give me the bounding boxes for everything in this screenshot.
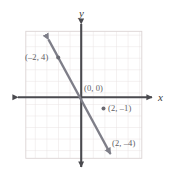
- coordinate-plane-figure: y x (–2, 4) (0, 0) (2, –1) (2, –4): [0, 0, 174, 182]
- y-axis-label: y: [79, 8, 84, 19]
- point-marker-2-neg1: [102, 107, 106, 111]
- x-axis-label: x: [158, 92, 163, 103]
- point-label-neg2-4: (–2, 4): [25, 53, 48, 62]
- point-label-origin: (0, 0): [84, 84, 103, 93]
- point-marker-neg2-4: [56, 56, 60, 60]
- point-label-2-neg4: (2, –4): [112, 139, 135, 148]
- point-label-2-neg1: (2, –1): [108, 104, 131, 113]
